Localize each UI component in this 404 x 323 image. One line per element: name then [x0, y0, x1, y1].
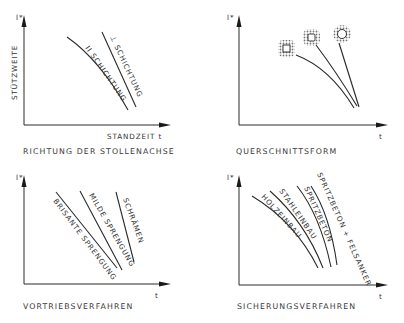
arrow-up-icon	[237, 15, 242, 27]
arrow-up-icon	[237, 175, 242, 187]
panel-caption: RICHTUNG DER STOLLENACHSE	[23, 147, 175, 156]
rounded-square-cross-section-icon	[303, 29, 320, 46]
panel-caption: QUERSCHNITTSFORM	[236, 147, 337, 156]
arrow-right-icon	[159, 282, 171, 287]
panel-sicherung: l* t SICHERUNGSVERFAHREN HOLZEINBAU STAH…	[227, 171, 388, 311]
y-axis: l*	[16, 173, 27, 284]
x-axis-label: t	[379, 132, 383, 141]
curve-label: BRISANTE SPRENGUNG	[51, 197, 118, 282]
y-axis-symbol: l*	[227, 13, 234, 22]
y-axis-symbol: l*	[16, 13, 23, 22]
x-axis	[24, 282, 171, 287]
diagram-canvas: l* STÜTZWEITE STANDZEIT t RICHTUNG DER S…	[0, 0, 404, 323]
y-axis: l*	[227, 173, 242, 285]
curve-circular	[339, 43, 359, 107]
x-axis-label: STANDZEIT t	[107, 132, 162, 141]
circular-cross-section-icon	[333, 25, 351, 43]
panel-querschnitt: l* t QUERSCHNITTSFORM	[227, 13, 388, 156]
square-cross-section-icon	[278, 40, 295, 57]
x-axis	[24, 123, 171, 128]
arrow-right-icon	[376, 123, 388, 128]
arrow-right-icon	[376, 283, 388, 288]
panel-caption: SICHERUNGSVERFAHREN	[237, 302, 356, 311]
x-axis	[239, 123, 388, 128]
y-axis: l*	[227, 13, 242, 125]
y-axis-symbol: l*	[16, 173, 23, 182]
y-axis-label: STÜTZWEITE	[10, 45, 19, 100]
panel-caption: VORTRIEBSVERFAHREN	[23, 302, 133, 311]
panel-richtung: l* STÜTZWEITE STANDZEIT t RICHTUNG DER S…	[10, 13, 175, 156]
y-axis-symbol: l*	[227, 173, 234, 182]
curve-label: SCHRÄMEN	[121, 197, 146, 245]
x-axis-label: t	[155, 291, 159, 300]
curve-rounded-square	[316, 45, 357, 106]
x-axis-label: t	[379, 292, 383, 301]
panel-vortrieb: l* t VORTRIEBSVERFAHREN BRISANTE SPRENGU…	[16, 173, 171, 311]
arrow-right-icon	[159, 123, 171, 128]
